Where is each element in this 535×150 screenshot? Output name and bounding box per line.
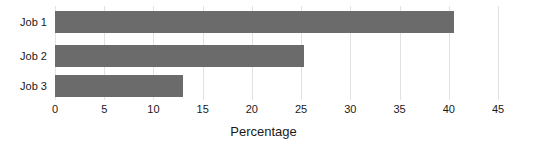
x-tick-label: 20	[246, 103, 258, 115]
bar-chart: Job 1Job 2Job 3 051015202530354045 Perce…	[0, 0, 535, 150]
bar	[55, 11, 454, 33]
x-axis-title-text: Percentage	[230, 124, 297, 139]
bar-row: Job 2	[55, 45, 304, 67]
x-tick-label: 40	[443, 103, 455, 115]
x-tick-label: 30	[344, 103, 356, 115]
x-axis-title: Percentage	[0, 124, 535, 139]
y-tick-label: Job 3	[20, 75, 47, 97]
bar	[55, 45, 304, 67]
x-tick-label: 45	[492, 103, 504, 115]
x-tick-label: 25	[295, 103, 307, 115]
y-tick-label: Job 2	[20, 45, 47, 67]
x-tick-label: 0	[52, 103, 58, 115]
bar-row: Job 3	[55, 75, 183, 97]
gridline	[498, 6, 499, 100]
y-tick-label: Job 1	[20, 11, 47, 33]
bar-row: Job 1	[55, 11, 454, 33]
bar	[55, 75, 183, 97]
x-tick-label: 35	[393, 103, 405, 115]
x-tick-label: 10	[147, 103, 159, 115]
plot-area: Job 1Job 2Job 3	[55, 6, 498, 100]
x-tick-label: 5	[101, 103, 107, 115]
x-tick-label: 15	[197, 103, 209, 115]
